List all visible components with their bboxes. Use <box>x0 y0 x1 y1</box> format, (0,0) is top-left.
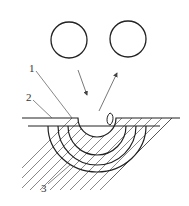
ejected-droplet <box>107 113 113 125</box>
particle-right-circle <box>110 21 146 57</box>
layer-arc-1 <box>68 126 126 155</box>
incident-arrow-icon <box>78 70 87 95</box>
leader-2 <box>33 100 52 118</box>
label-1: 1 <box>29 62 35 74</box>
substrate-hatching <box>0 110 180 190</box>
reflected-arrow-icon <box>99 73 117 111</box>
particle-left-circle <box>51 22 87 58</box>
label-3: 3 <box>41 182 47 194</box>
leader-1 <box>36 71 72 118</box>
diagram-canvas: 1 2 3 <box>0 0 189 206</box>
label-2: 2 <box>26 91 32 103</box>
